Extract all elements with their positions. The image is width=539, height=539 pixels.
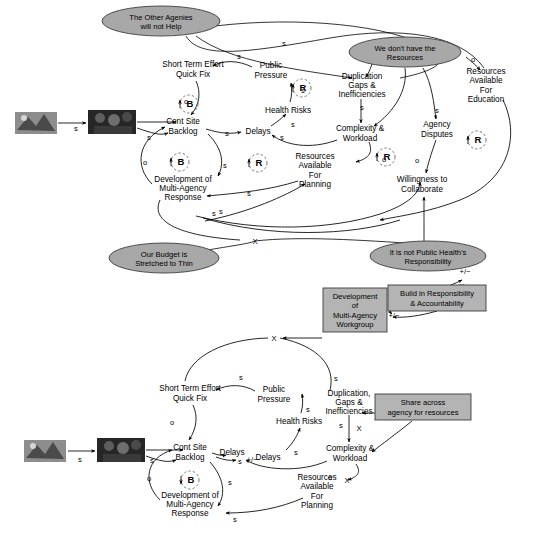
variable-l-delays-2-line: Delays [255,453,280,462]
polarity-label-s: s [294,448,298,457]
variable-l-delays-1-line: Delays [219,448,244,457]
variable-l-complexity: Complexity &Workload [326,444,375,462]
variable-u-delays-line: Delays [245,127,270,136]
variable-u-short-term-line: Quick Fix [176,70,210,79]
archival-photo-upper-left [15,112,57,134]
variable-u-resources-education-line: For [480,86,493,95]
polarity-label-s: s [247,189,251,198]
variable-l-health-risks-line: Health Risks [276,417,322,426]
variable-u-duplication-line: Duplication [342,72,383,81]
diagram-canvas: B R B R R R [0,0,539,539]
variable-l-resources-planning-line: For [311,492,324,501]
intervention-label-l-box-share-line: Share across [401,398,446,407]
polarity-label-s: s [282,39,286,48]
intervention-label-l-box-workgroup-line: Multi-Agency [333,311,377,320]
polarity-label-o: o [143,158,147,167]
polarity-label-s: s [233,515,237,524]
variable-u-delays: Delays [245,127,270,136]
polarity-label-s: s [225,129,229,138]
polarity-label-s: s [306,405,310,414]
variable-l-cont-site-backlog: Cont SiteBacklog [173,443,207,461]
variable-u-cont-site-backlog-line: Cont Site [166,117,200,126]
variable-u-agency-disputes: AgencyDisputes [421,120,453,138]
variable-u-health-risks: Health Risks [265,106,311,115]
variable-l-public-pressure-line: Public [263,385,285,394]
variable-u-public-pressure-line: Public [260,61,282,70]
archival-photo-lower-left [24,440,66,462]
polarity-label-s: s [228,478,232,487]
mental-model-label-u-mm-other-agencies-line: The Other Agenies [129,13,193,22]
polarity-label-o: o [382,155,386,164]
polarity-label-s: s [339,421,343,430]
variable-l-public-pressure: PublicPressure [258,385,291,403]
mental-model-label-u-mm-no-resources-line: We don't have the [375,44,436,53]
variable-u-resources-planning-line: Resources [295,152,334,161]
intervention-label-l-box-workgroup-line: Workgroup [336,320,373,329]
variable-l-delays-1: Delays [219,448,244,457]
variable-u-resources-education: ResourcesAvailableForEducation [466,67,505,104]
variable-u-short-term-line: Short Term Effort [162,60,224,69]
polarity-label-s: s [360,103,364,112]
variable-u-public-pressure: PublicPressure [255,61,288,79]
variable-l-short-term-line: Short Term Effort [159,384,221,393]
polarity-label-o: o [184,97,188,106]
intervention-label-l-box-responsibility: Build in Responsibility& Accountability [400,289,474,308]
lower-loop-markers: B [181,471,199,489]
mental-model-label-u-mm-budget-line: Stretched to Thin [135,259,193,268]
causal-loop-diagram: B R B R R R [0,0,539,539]
variable-l-development-line: Development of [161,491,219,500]
photo-thumbnails [15,110,145,462]
mental-model-label-u-mm-public-health-line: Responsibility [405,257,452,266]
variable-u-resources-education-line: Resources [466,67,505,76]
variable-u-cont-site-backlog-line: Backlog [168,127,198,136]
variable-u-resources-education-line: Education [468,95,505,104]
variable-u-agency-disputes-line: Agency [423,120,451,129]
polarity-label-o: o [147,474,151,483]
variable-u-willingness-line: Willingness to [397,175,448,184]
svg-text:R: R [256,157,263,168]
x-marker: X [271,334,276,343]
variable-u-health-risks-line: Health Risks [265,106,311,115]
polarity-label-s: s [219,207,223,216]
variable-u-short-term: Short Term EffortQuick Fix [162,60,224,78]
intervention-label-l-box-responsibility-line: & Accountability [410,299,464,308]
polarity-label-s: s [291,120,295,129]
variable-l-development: Development ofMulti-AgencyResponse [161,491,219,519]
x-marker: X [356,424,361,433]
variable-u-public-pressure-line: Pressure [255,71,288,80]
mental-model-label-u-mm-no-resources-line: Resources [387,53,423,62]
polarity-label-s: s [435,106,439,115]
variable-u-duplication-line: Gaps & [348,81,376,90]
mental-model-label-u-mm-budget: Our Budget isStretched to Thin [135,250,193,268]
polarity-label-s: s [237,52,241,61]
x-marker: X [252,237,257,246]
variable-l-duplication-line: Duplication, [328,389,371,398]
variable-u-development-line: Response [165,193,202,202]
polarity-label-s: s [239,373,243,382]
variable-l-resources-planning-line: Planning [301,501,333,510]
archival-photo-upper-right [88,110,136,134]
intervention-label-l-box-workgroup: DevelopmentofMulti-AgencyWorkgroup [333,292,379,330]
mental-model-label-u-mm-budget-line: Our Budget is [141,250,188,259]
svg-text:B: B [178,156,185,167]
variable-u-cont-site-backlog: Cont SiteBacklog [166,117,200,135]
variable-u-development-line: Development of [154,175,212,184]
variable-l-delays-2: Delays [255,453,280,462]
polarity-label-s: s [212,209,216,218]
polarity-label-s: s [334,374,338,383]
variable-u-duplication: DuplicationGaps &Inefficiencies [338,72,385,100]
variable-u-resources-planning-line: Planning [299,180,331,189]
ambiguous-polarity-label: +/− [247,455,259,464]
intervention-label-l-box-share-line: agency for resources [388,408,459,417]
svg-text:B: B [188,474,195,485]
intervention-label-l-box-responsibility-line: Build in Responsibility [400,289,474,298]
polarity-label-s: s [301,86,305,95]
polarity-label-s: s [238,457,242,466]
variable-u-resources-education-line: Available [469,76,503,85]
variable-l-complexity-line: Workload [333,454,368,463]
polarity-label-o: o [170,418,174,427]
polarity-label-s: s [223,161,227,170]
variable-u-complexity-line: Complexity & [336,124,385,133]
variable-u-willingness: Willingness toCollaborate [397,175,448,193]
polarity-label-o: o [471,55,475,64]
